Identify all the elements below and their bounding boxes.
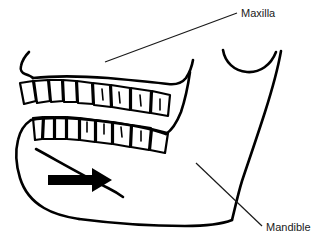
mandibular-notch-arc	[223, 50, 276, 72]
mandible-leader-line	[196, 163, 262, 226]
mandible-oblique-line	[36, 149, 123, 197]
tooth-upper-4	[63, 80, 77, 102]
maxilla-leader-line	[105, 13, 237, 62]
tooth-lower-2	[43, 117, 54, 139]
tooth-lower-3	[55, 117, 66, 139]
arrow-icon	[48, 168, 112, 192]
tooth-upper-3	[49, 80, 63, 102]
lower-teeth-row	[33, 117, 168, 153]
mandible-label: Mandible	[266, 221, 311, 233]
forward-motion-arrow	[48, 168, 112, 192]
tooth-lower-4	[67, 117, 79, 140]
jaw-anatomy-diagram: Maxilla Mandible	[0, 0, 334, 252]
maxilla-label: Maxilla	[241, 7, 276, 19]
diagram-canvas: Maxilla Mandible	[0, 0, 334, 252]
mandible-posterior-border	[232, 51, 281, 220]
tooth-upper-6-fissure	[102, 89, 103, 100]
tooth-lower-7-fissure	[121, 127, 122, 137]
tooth-upper-8-fissure	[140, 95, 141, 106]
tooth-upper-5	[77, 81, 93, 104]
tooth-upper-7-fissure	[119, 92, 120, 103]
mandible-inferior-border	[79, 219, 232, 226]
labels: Maxilla Mandible	[241, 7, 311, 233]
tooth-upper-7	[111, 85, 130, 110]
upper-teeth-row	[20, 80, 170, 116]
maxilla-anterior-profile	[21, 52, 33, 78]
tooth-upper-2	[34, 80, 50, 103]
